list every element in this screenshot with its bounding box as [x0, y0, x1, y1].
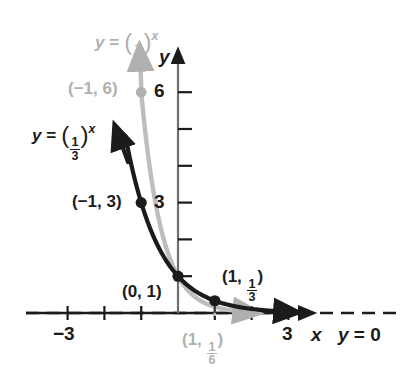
point-label-0-1: (0, 1): [122, 283, 162, 300]
asymptote-label: y = 0: [338, 325, 381, 344]
point-label-1-one-third: (1, 13): [222, 268, 263, 304]
y-tick-label-6: 6: [154, 81, 165, 100]
black-point-marker-neg1-3: [136, 197, 147, 208]
black-curve-equation-label: y = (13)x: [32, 123, 95, 163]
gray-eq-fraction: 16: [133, 43, 143, 70]
one-sixth-fraction: 16: [207, 341, 217, 368]
point-label-neg1-6: (−1, 6): [68, 80, 118, 97]
y-axis-ticks: [178, 92, 192, 276]
x-tick-label-3: 3: [282, 324, 293, 343]
black-eq-fraction: 13: [70, 136, 80, 163]
y-axis-label: y: [159, 47, 170, 66]
gray-point-marker-neg1-6: [136, 87, 147, 98]
gray-curve-equation-label: y = (16)x: [95, 30, 158, 70]
one-third-fraction: 13: [247, 278, 257, 305]
y-tick-label-3: 3: [154, 192, 165, 211]
point-label-neg1-3: (−1, 3): [72, 193, 122, 210]
x-tick-label-neg3: −3: [53, 324, 75, 343]
black-point-marker-1-third: [209, 295, 220, 306]
exponential-functions-graph-figure: y = (16)x y = (13)x (−1, 6) (−1, 3) (0, …: [0, 0, 411, 369]
graph-canvas: [0, 0, 411, 369]
x-axis-label: x: [311, 325, 322, 344]
point-label-1-one-sixth: (1, 16): [182, 331, 223, 367]
asymptote-label-y: y: [338, 324, 349, 345]
asymptote-label-eq: = 0: [354, 324, 381, 345]
black-point-marker-0-1: [172, 271, 183, 282]
